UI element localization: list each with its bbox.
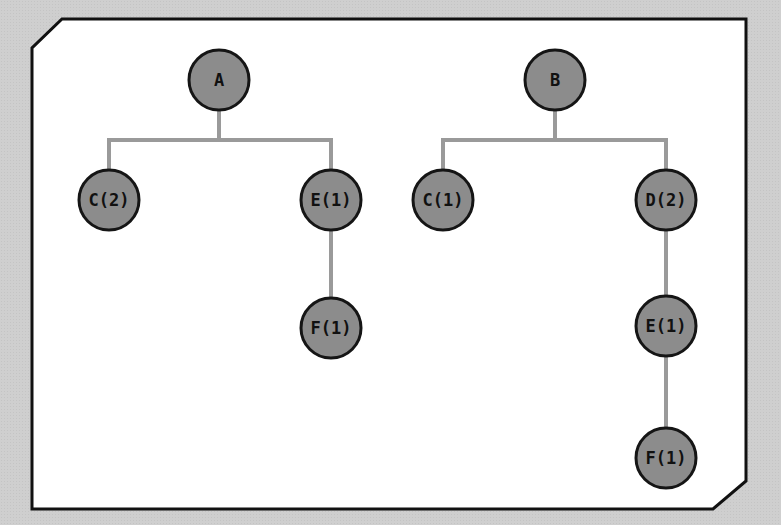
node-e1-tree-b-label: E(1) [646, 316, 687, 336]
node-e1-tree-b: E(1) [636, 296, 696, 356]
node-d2-label: D(2) [646, 190, 687, 210]
node-c2-label: C(2) [89, 190, 130, 210]
node-c1: C(1) [413, 170, 473, 230]
node-f1-tree-b-label: F(1) [646, 448, 687, 468]
node-f1-tree-a: F(1) [301, 298, 361, 358]
node-a: A [189, 50, 249, 110]
node-a-label: A [214, 70, 224, 90]
node-e1-tree-a-label: E(1) [311, 190, 352, 210]
node-c2: C(2) [79, 170, 139, 230]
node-d2: D(2) [636, 170, 696, 230]
node-f1-tree-b: F(1) [636, 428, 696, 488]
node-b-label: B [550, 70, 560, 90]
node-b: B [525, 50, 585, 110]
diagram-canvas: A C(2) E(1) F(1) B C(1) D(2) E(1) F(1) [0, 0, 781, 525]
diagram-panel [32, 19, 746, 509]
node-e1-tree-a: E(1) [301, 170, 361, 230]
node-f1-tree-a-label: F(1) [311, 318, 352, 338]
node-c1-label: C(1) [423, 190, 464, 210]
